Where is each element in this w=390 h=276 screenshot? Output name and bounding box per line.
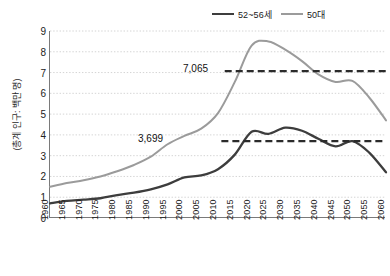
y-tick-label: 8 (26, 46, 46, 57)
legend-entry-0: 52~56세 (212, 8, 272, 21)
x-tick-label: 2035 (292, 199, 302, 220)
legend-label-50s: 50대 (307, 8, 325, 21)
x-tick-label: 1990 (141, 199, 151, 220)
y-tick-label: 4 (26, 129, 46, 140)
plot-area (49, 31, 385, 218)
chart-legend: 52~56세 50대 (212, 6, 325, 22)
x-tick-label: 1985 (124, 199, 134, 220)
y-tick-label: 3 (26, 150, 46, 161)
x-tick-label: 2060 (376, 199, 386, 220)
x-tick-label: 1965 (57, 199, 67, 220)
x-tick-label: 1970 (74, 199, 84, 220)
x-tick-label: 2050 (342, 199, 352, 220)
x-tick-label: 2010 (208, 199, 218, 220)
x-tick-label: 2025 (258, 199, 268, 220)
legend-entry-1: 50대 (281, 8, 325, 21)
y-tick-label: 6 (26, 88, 46, 99)
x-tick-label: 2000 (174, 199, 184, 220)
y-tick-label: 7 (26, 67, 46, 78)
x-tick-label: 1995 (158, 199, 168, 220)
x-tick-label: 1960 (40, 199, 50, 220)
x-tick-label: 1975 (90, 199, 100, 220)
x-tick-label: 2005 (191, 199, 201, 220)
x-tick-label: 2045 (326, 199, 336, 220)
annotation-7065: 7,065 (183, 63, 208, 74)
x-tick-label: 2055 (359, 199, 369, 220)
x-tick-label: 2040 (309, 199, 319, 220)
legend-swatch-50s (281, 13, 303, 15)
annotation-3699: 3,699 (138, 133, 163, 144)
y-axis-ticks: 0123456789 (22, 31, 46, 218)
chart-container: 52~56세 50대 (총계 인구: 백만 명) 0123456789 1960… (0, 0, 390, 276)
x-tick-label: 2030 (275, 199, 285, 220)
x-tick-label: 1980 (107, 199, 117, 220)
y-tick-label: 2 (26, 171, 46, 182)
series-line-52-56 (50, 128, 386, 204)
x-tick-label: 2020 (242, 199, 252, 220)
y-axis-title: (총계 인구: 백만 명) (10, 55, 23, 175)
y-tick-label: 5 (26, 109, 46, 120)
x-axis-ticks: 1960196519701975198019851990199520002005… (49, 220, 385, 276)
x-tick-label: 2015 (225, 199, 235, 220)
y-tick-label: 9 (26, 26, 46, 37)
plot-svg (50, 31, 386, 218)
legend-label-52-56: 52~56세 (238, 8, 272, 21)
series-lines (50, 41, 386, 204)
legend-swatch-52-56 (212, 13, 234, 15)
